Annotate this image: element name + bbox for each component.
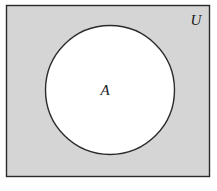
set-a-circle [46, 26, 175, 155]
set-a-label: A [99, 82, 110, 98]
universe-label: U [191, 12, 203, 28]
venn-diagram-canvas: U A [0, 0, 217, 191]
venn-diagram-figure: U A [0, 0, 217, 191]
